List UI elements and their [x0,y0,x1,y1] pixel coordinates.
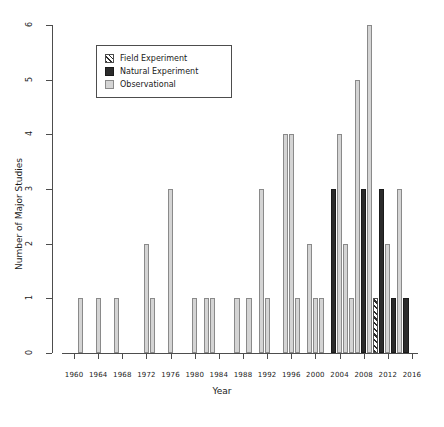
x-axis-tick [340,354,341,359]
x-axis-tick [74,354,75,359]
x-axis-tick [122,354,123,359]
y-axis-tick-label: 6 [18,20,40,29]
bar [361,189,366,353]
x-axis-tick [171,354,172,359]
bar [192,298,197,353]
x-axis-tick [364,354,365,359]
y-axis-tick-label: 5 [18,75,40,84]
y-axis-tick [46,189,52,190]
x-axis-tick [195,354,196,359]
legend: Field ExperimentNatural ExperimentObserv… [96,45,232,98]
y-axis-tick-label: 2 [18,239,40,248]
y-axis-tick [46,298,52,299]
y-axis-tick [46,80,52,81]
legend-item-label: Observational [120,80,176,89]
legend-item-label: Natural Experiment [120,67,198,76]
bar [373,298,378,353]
y-axis-line [52,25,53,353]
y-axis-tick-label: 3 [18,184,40,193]
bar [78,298,83,353]
bar [319,298,324,353]
legend-swatch-observational-icon [105,80,114,89]
bar [246,298,251,353]
bar [391,298,396,353]
bar [397,189,402,353]
bar [355,80,360,353]
bar [367,25,372,353]
bar [234,298,239,353]
bar [295,298,300,353]
bar [96,298,101,353]
y-axis-label-text: Number of Major Studies [14,158,24,270]
bar [313,298,318,353]
bar [259,189,264,353]
bar [168,189,173,353]
legend-item-label: Field Experiment [120,54,187,63]
y-axis-tick [46,353,52,354]
x-axis-tick [315,354,316,359]
x-axis-tick [98,354,99,359]
bar [379,189,384,353]
y-axis-tick [46,244,52,245]
bar [349,298,354,353]
y-axis-tick-label: 1 [18,293,40,302]
x-axis-label: Year [0,386,444,396]
x-axis-tick [146,354,147,359]
bar [343,244,348,353]
bar [114,298,119,353]
legend-swatch-natural-icon [105,67,114,76]
x-axis-tick [412,354,413,359]
x-axis-tick-label: 2016 [395,371,429,379]
x-axis-tick [291,354,292,359]
y-axis-tick [46,25,52,26]
legend-item-natural: Natural Experiment [105,65,223,78]
bar [385,244,390,353]
y-axis-tick [46,134,52,135]
y-axis-tick-label: 0 [18,348,40,357]
x-axis-tick [219,354,220,359]
legend-swatch-field-icon [105,54,114,63]
bar [210,298,215,353]
bar [403,298,408,353]
y-axis-tick-label: 4 [18,129,40,138]
bar [265,298,270,353]
studies-by-year-histogram: Number of Major Studies 0123456 19601964… [0,0,444,427]
bar [331,189,336,353]
bar [307,244,312,353]
bar [144,244,149,353]
x-axis-label-text: Year [212,386,231,396]
bar [150,298,155,353]
bar [204,298,209,353]
x-axis-tick [243,354,244,359]
bar [337,134,342,353]
bar [283,134,288,353]
bar [289,134,294,353]
x-axis-tick [267,354,268,359]
x-axis-tick [388,354,389,359]
legend-item-field: Field Experiment [105,52,223,65]
legend-item-observational: Observational [105,78,223,91]
